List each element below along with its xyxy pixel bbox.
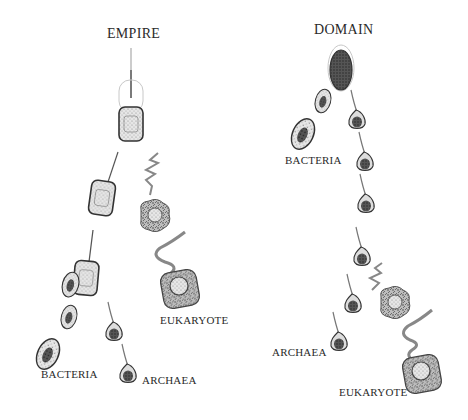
empire-tree	[32, 48, 201, 383]
domain-tree	[287, 45, 443, 395]
cell-illustrations	[0, 0, 468, 420]
